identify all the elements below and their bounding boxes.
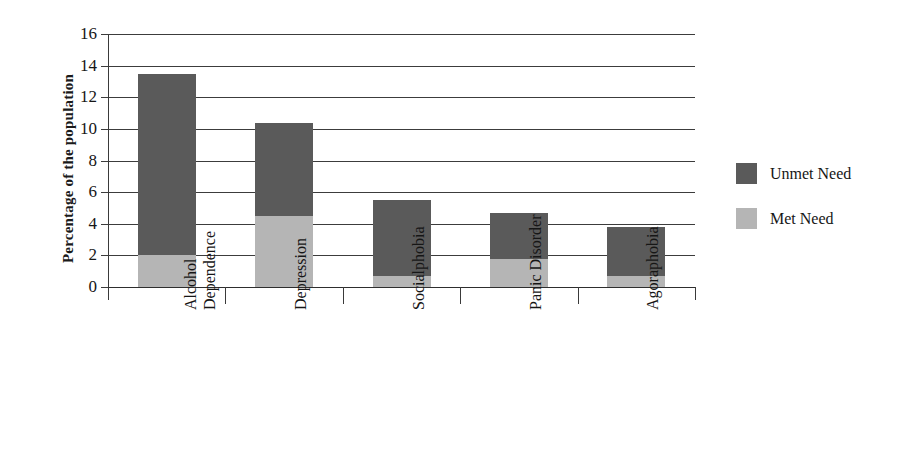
x-axis-label-line: Socialphobia [409, 180, 428, 310]
y-tick-label: 14 [57, 57, 97, 74]
y-tick-mark [101, 129, 108, 130]
x-tick-mark [225, 287, 226, 304]
y-tick-label: 16 [57, 25, 97, 42]
legend-label: Unmet Need [770, 164, 851, 183]
x-tick-mark [578, 287, 579, 304]
stacked-bar-chart: Percentage of the population 02468101214… [0, 0, 911, 460]
x-axis-label-line: Alcohol [181, 180, 200, 310]
x-tick-mark [695, 287, 696, 300]
x-axis-label: Agoraphobia [643, 180, 662, 310]
x-axis-label: Depression [291, 180, 310, 310]
y-tick-label: 6 [57, 183, 97, 200]
x-axis-label: AlcoholDependence [181, 180, 219, 310]
y-tick-label: 0 [57, 278, 97, 295]
x-tick-mark [343, 287, 344, 304]
y-tick-mark [101, 192, 108, 193]
y-tick-mark [101, 34, 108, 35]
x-axis-label-line: Dependence [200, 180, 219, 310]
y-tick-label: 4 [57, 215, 97, 232]
x-axis-label: Panic Disorder [526, 180, 545, 310]
legend-label: Met Need [770, 209, 834, 228]
y-tick-mark [101, 161, 108, 162]
y-tick-label: 10 [57, 120, 97, 137]
x-axis-label: Socialphobia [409, 180, 428, 310]
legend-swatch [736, 163, 757, 184]
x-axis-label-line: Depression [291, 180, 310, 310]
y-tick-mark [101, 66, 108, 67]
y-tick-mark [101, 255, 108, 256]
y-tick-mark [101, 287, 108, 288]
x-axis-label-line: Panic Disorder [526, 180, 545, 310]
y-tick-label: 8 [57, 152, 97, 169]
y-tick-mark [101, 97, 108, 98]
x-tick-mark [460, 287, 461, 304]
x-axis-label-line: Agoraphobia [643, 180, 662, 310]
y-tick-mark [101, 224, 108, 225]
legend-swatch [736, 208, 757, 229]
y-tick-label: 12 [57, 88, 97, 105]
y-tick-label: 2 [57, 246, 97, 263]
x-tick-mark [108, 287, 109, 300]
